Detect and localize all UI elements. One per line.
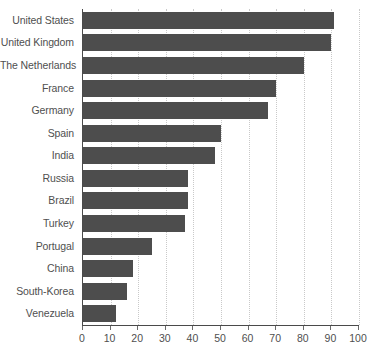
bar <box>83 192 188 209</box>
bar <box>83 12 334 29</box>
bar <box>83 80 276 97</box>
bar <box>83 34 331 51</box>
bar <box>83 238 152 255</box>
category-label: Spain <box>0 125 78 142</box>
x-tick-50 <box>220 326 221 330</box>
category-label: South-Korea <box>0 283 78 300</box>
category-label: Germany <box>0 102 78 119</box>
bar <box>83 260 133 277</box>
category-label: United States <box>0 12 78 29</box>
plot-area <box>82 9 359 326</box>
x-tick-0 <box>82 326 83 330</box>
bar <box>83 215 185 232</box>
x-tick-60 <box>248 326 249 330</box>
bar <box>83 57 304 74</box>
x-tick-label: 100 <box>338 332 371 344</box>
bar <box>83 283 127 300</box>
category-label: France <box>0 80 78 97</box>
bar <box>83 170 188 187</box>
bars-layer <box>83 9 359 325</box>
bar <box>83 102 268 119</box>
x-tick-40 <box>192 326 193 330</box>
category-label: Venezuela <box>0 305 78 322</box>
category-label: India <box>0 147 78 164</box>
category-label: The Netherlands <box>0 57 78 74</box>
x-axis: 0102030405060708090100 <box>82 326 358 353</box>
bar <box>83 147 215 164</box>
bar <box>83 125 221 142</box>
category-label: Russia <box>0 170 78 187</box>
category-label: Turkey <box>0 215 78 232</box>
bar-chart: United StatesUnited KingdomThe Netherlan… <box>0 0 371 353</box>
x-tick-90 <box>330 326 331 330</box>
category-label: China <box>0 260 78 277</box>
category-label: United Kingdom <box>0 34 78 51</box>
x-tick-10 <box>110 326 111 330</box>
category-label: Portugal <box>0 238 78 255</box>
gridline-100 <box>359 9 360 325</box>
category-axis-labels: United StatesUnited KingdomThe Netherlan… <box>0 9 78 325</box>
x-tick-30 <box>165 326 166 330</box>
x-tick-70 <box>275 326 276 330</box>
x-tick-20 <box>137 326 138 330</box>
bar <box>83 305 116 322</box>
x-tick-100 <box>358 326 359 330</box>
category-label: Brazil <box>0 192 78 209</box>
x-tick-80 <box>303 326 304 330</box>
